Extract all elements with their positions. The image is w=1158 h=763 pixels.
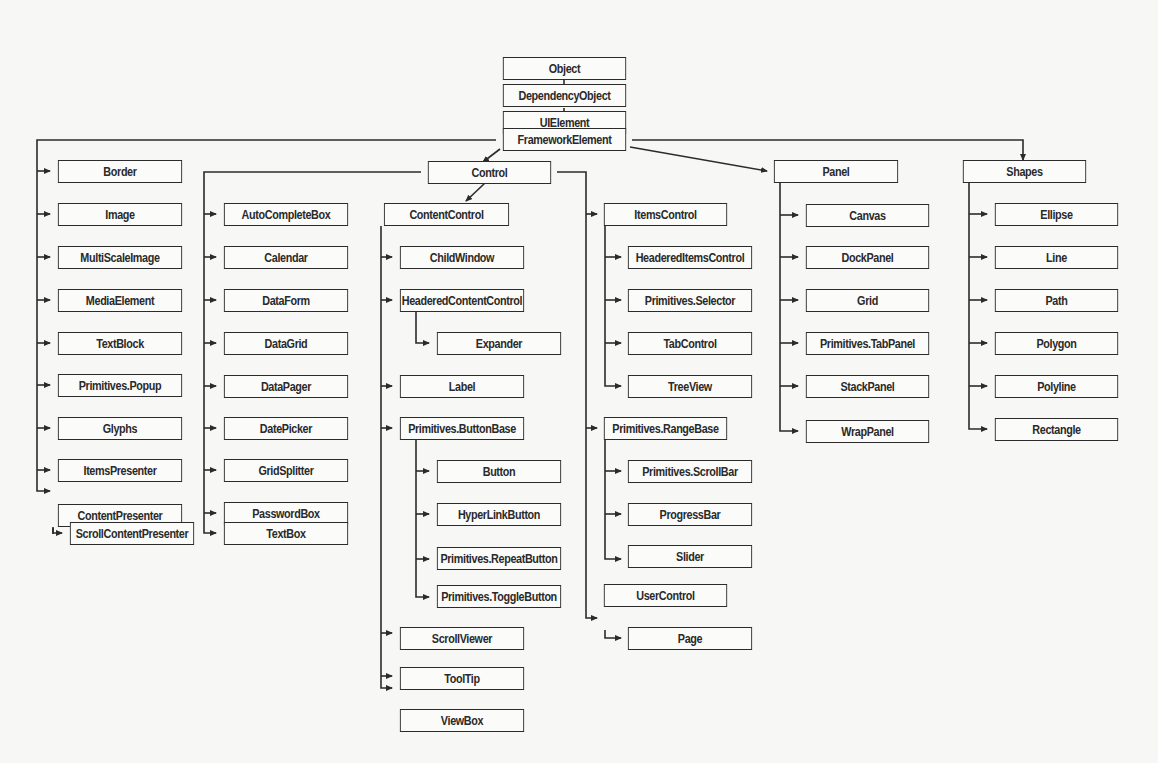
node-label: Canvas [849, 209, 885, 223]
node-label: Line [1046, 251, 1067, 265]
node-data-grid: DataGrid [224, 332, 348, 355]
node-label: Slider [676, 550, 704, 564]
node-label: Button [483, 465, 516, 479]
node-label: HeaderedItemsControl [636, 251, 745, 265]
node-label: Grid [857, 294, 878, 308]
node-label: HyperLinkButton [458, 508, 540, 522]
node-label: Expander [476, 337, 522, 351]
node-label: GridSplitter [258, 464, 313, 478]
node-wrap-panel: WrapPanel [806, 420, 929, 443]
node-progress-bar: ProgressBar [628, 503, 752, 526]
node-label: Primitives.ButtonBase [408, 422, 516, 436]
node-label: ToolTip [444, 672, 479, 686]
node-tab-control: TabControl [628, 332, 752, 355]
node-data-form: DataForm [224, 289, 348, 312]
node-text-box: TextBox [224, 522, 348, 545]
node-dependency-object: DependencyObject [503, 84, 626, 107]
node-button: Button [437, 460, 561, 483]
node-label: Primitives.Selector [645, 294, 735, 308]
node-glyphs: Glyphs [58, 417, 182, 440]
node-object: Object [503, 57, 626, 80]
node-label: HeaderedContentControl [402, 294, 522, 308]
node-view-box: ViewBox [400, 709, 524, 732]
node-label: Polygon [1036, 337, 1076, 351]
node-stack-panel: StackPanel [806, 375, 929, 398]
node-items-presenter: ItemsPresenter [58, 459, 182, 482]
node-primitives-repeat-button: Primitives.RepeatButton [437, 547, 561, 570]
node-label: ScrollViewer [432, 632, 492, 646]
node-grid: Grid [806, 289, 929, 312]
node-label: MultiScaleImage [80, 251, 159, 265]
node-label: Image [105, 208, 134, 222]
node-label: ContentPresenter [78, 509, 163, 523]
node-label: Primitives.RangeBase [612, 422, 718, 436]
node-headered-items-control: HeaderedItemsControl [628, 246, 752, 269]
node-label: Primitives.Popup [79, 379, 161, 393]
node-label: Primitives.ScrollBar [642, 465, 737, 479]
node-label: Control [472, 166, 508, 180]
node-panel: Panel [774, 160, 898, 183]
node-primitives-scroll-bar: Primitives.ScrollBar [628, 460, 752, 483]
node-page: Page [628, 627, 752, 650]
node-primitives-toggle-button: Primitives.ToggleButton [437, 585, 561, 608]
node-framework-element: FrameworkElement [503, 128, 626, 151]
node-label: ItemsControl [634, 208, 696, 222]
node-items-control: ItemsControl [604, 203, 727, 226]
node-label: Panel [822, 165, 849, 179]
node-label: PasswordBox [252, 507, 319, 521]
node-slider: Slider [628, 545, 752, 568]
node-label: Shapes [1006, 165, 1042, 179]
node-user-control: UserControl [604, 584, 727, 607]
node-calendar: Calendar [224, 246, 348, 269]
node-label: ScrollContentPresenter [76, 527, 189, 541]
node-label: DockPanel [841, 251, 893, 265]
node-control: Control [428, 161, 551, 184]
node-label: ItemsPresenter [83, 464, 156, 478]
node-line: Line [995, 246, 1118, 269]
node-multi-scale-image: MultiScaleImage [58, 246, 182, 269]
node-label: TextBox [266, 527, 305, 541]
node-label: Page [678, 632, 702, 646]
node-label: ContentControl [409, 208, 483, 222]
node-label: UserControl [636, 589, 694, 603]
node-label: Calendar [264, 251, 307, 265]
node-primitives-popup: Primitives.Popup [58, 374, 182, 397]
node-shapes: Shapes [963, 160, 1086, 183]
node-label: TreeView [668, 380, 712, 394]
node-scroll-content-presenter: ScrollContentPresenter [70, 522, 194, 545]
node-label: WrapPanel [841, 425, 893, 439]
node-label: Object [549, 62, 580, 76]
node-label: ChildWindow [430, 251, 494, 265]
node-label: DataPager [261, 380, 311, 394]
node-label: FrameworkElement [518, 133, 612, 147]
node-label: DataGrid [265, 337, 308, 351]
node-label: Ellipse [1040, 208, 1072, 222]
node-image: Image [58, 203, 182, 226]
node-tool-tip: ToolTip [400, 667, 524, 690]
node-headered-content-control: HeaderedContentControl [400, 289, 524, 312]
node-primitives-button-base: Primitives.ButtonBase [400, 417, 524, 440]
node-dock-panel: DockPanel [806, 246, 929, 269]
node-label: Border [103, 165, 136, 179]
node-content-control: ContentControl [384, 203, 509, 226]
node-auto-complete-box: AutoCompleteBox [224, 203, 348, 226]
node-label: DatePicker [260, 422, 312, 436]
node-child-window: ChildWindow [400, 246, 524, 269]
node-data-pager: DataPager [224, 375, 348, 398]
node-label-class: Label [400, 375, 524, 398]
node-date-picker: DatePicker [224, 417, 348, 440]
node-label: Primitives.RepeatButton [440, 552, 557, 566]
node-label: TabControl [663, 337, 716, 351]
node-tree-view: TreeView [628, 375, 752, 398]
node-border: Border [58, 160, 182, 183]
node-label: Rectangle [1032, 423, 1080, 437]
node-primitives-range-base: Primitives.RangeBase [604, 417, 727, 440]
node-hyperlink-button: HyperLinkButton [437, 503, 561, 526]
node-label: Glyphs [103, 422, 137, 436]
node-label: AutoCompleteBox [242, 208, 331, 222]
node-polygon: Polygon [995, 332, 1118, 355]
node-label: MediaElement [86, 294, 154, 308]
node-path: Path [995, 289, 1118, 312]
node-media-element: MediaElement [58, 289, 182, 312]
node-label: StackPanel [840, 380, 894, 394]
